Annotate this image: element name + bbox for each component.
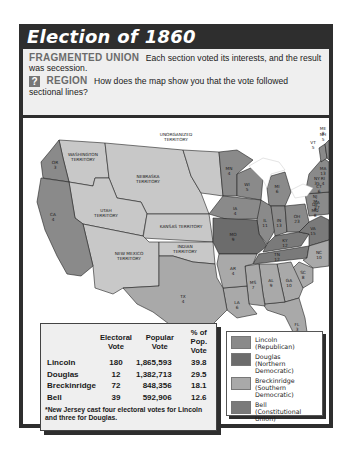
cell-electoral: 72: [98, 380, 134, 392]
label-washington-territory: WASHINGTONTERRITORY: [68, 152, 98, 162]
label-kansas-territory: KANSAS TERRITORY: [160, 224, 203, 229]
header-percent: % ofPop. Vote: [186, 328, 212, 357]
label-nebraska-territory: NEBRASKATERRITORY: [135, 174, 160, 184]
legend-swatch-lincoln: [231, 336, 251, 349]
header-electoral: ElectoralVote: [98, 328, 134, 357]
legend-name: Breckinridge: [255, 377, 295, 384]
state-label-va: VA15: [310, 226, 316, 236]
state-label-vt: VT5: [310, 140, 316, 150]
question-mark-icon: ?: [29, 76, 40, 87]
state-label-ky: KY12: [282, 238, 288, 248]
label-unorganized-territory: UNORGANIZEDTERRITORY: [160, 132, 193, 142]
state-label-nc: NC10: [316, 250, 322, 260]
cell-electoral: 180: [98, 357, 134, 369]
legend-party: (Republican): [255, 343, 295, 350]
cell-popular: 848,356: [134, 380, 186, 392]
cell-percent: 29.5: [186, 369, 212, 381]
map-legend: Lincoln(Republican) Douglas(Northern Dem…: [226, 331, 323, 416]
legend-swatch-breckinridge: [231, 377, 251, 390]
state-label-in: IN13: [276, 218, 282, 228]
intro-box: FRAGMENTED UNION Each section voted its …: [23, 49, 329, 115]
cell-candidate: Breckinridge: [45, 380, 98, 392]
legend-name: Bell: [255, 401, 267, 408]
intro-question: ? REGION How does the map show you that …: [29, 76, 323, 97]
cell-popular: 1,382,713: [134, 369, 186, 381]
legend-item-bell: Bell(Constitutional Union): [231, 401, 318, 422]
cell-percent: 12.6: [186, 392, 212, 404]
table-row: Lincoln 180 1,865,593 39.8: [45, 357, 212, 369]
state-mi: [267, 172, 291, 206]
legend-item-breckinridge: Breckinridge(Southern Democratic): [231, 377, 318, 398]
state-label-ga: GA10: [286, 278, 292, 288]
legend-item-lincoln: Lincoln(Republican): [231, 336, 318, 350]
table-row: Breckinridge 72 848,356 18.1: [45, 380, 212, 392]
cell-percent: 18.1: [186, 380, 212, 392]
question-kicker: REGION: [46, 75, 87, 86]
intro-caption: FRAGMENTED UNION Each section voted its …: [29, 53, 323, 73]
table-row: Bell 39 592,906 12.6: [45, 392, 212, 404]
cell-percent: 39.8: [186, 357, 212, 369]
cell-candidate: Bell: [45, 392, 98, 404]
legend-party: (Southern Democratic): [255, 384, 294, 398]
table-row: Douglas 12 1,382,713 29.5: [45, 369, 212, 381]
cell-electoral: 39: [98, 392, 134, 404]
legend-name: Douglas: [255, 353, 281, 360]
cell-candidate: Douglas: [45, 369, 98, 381]
label-new-mexico-territory: NEW MEXICOTERRITORY: [115, 251, 144, 261]
header-candidate: [45, 328, 98, 357]
cell-candidate: Lincoln: [45, 357, 98, 369]
legend-party: (Constitutional Union): [255, 408, 301, 422]
cell-popular: 592,906: [134, 392, 186, 404]
intro-kicker: FRAGMENTED UNION: [29, 52, 139, 63]
legend-swatch-bell: [231, 401, 251, 414]
table-footnote: *New Jersey cast four electoral votes fo…: [45, 406, 212, 422]
state-label-oh: OH23: [294, 214, 301, 224]
cell-popular: 1,865,593: [134, 357, 186, 369]
legend-party: (Northern Democratic): [255, 360, 294, 374]
legend-item-douglas: Douglas(Northern Democratic): [231, 353, 318, 374]
results-header-row: ElectoralVote PopularVote % ofPop. Vote: [45, 328, 212, 357]
legend-swatch-douglas: [231, 353, 251, 366]
header-popular: PopularVote: [134, 328, 186, 357]
results-table: ElectoralVote PopularVote % ofPop. Vote …: [40, 323, 217, 431]
cell-electoral: 12: [98, 369, 134, 381]
map-title: Election of 1860: [27, 26, 196, 47]
state-label-ma: MA13: [320, 166, 327, 176]
results-grid: ElectoralVote PopularVote % ofPop. Vote …: [45, 328, 212, 403]
legend-name: Lincoln: [255, 336, 277, 343]
state-label-tn: TN12: [273, 252, 280, 262]
